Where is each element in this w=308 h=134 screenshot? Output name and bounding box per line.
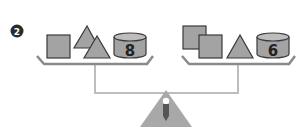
- fulcrum: [140, 90, 192, 127]
- left-cylinder-label: 8: [125, 42, 135, 60]
- left-pan: 8: [37, 26, 153, 64]
- scale-frame: [94, 64, 239, 94]
- right-cylinder-label: 6: [268, 42, 278, 60]
- balance-scale-figure: 2 8: [0, 0, 308, 134]
- right-cylinder: 6: [257, 33, 289, 60]
- problem-number-badge: 2: [11, 25, 24, 38]
- right-square-front: [199, 35, 222, 58]
- left-cylinder: 8: [114, 33, 146, 60]
- left-square: [47, 35, 70, 58]
- right-pan: 6: [182, 26, 295, 64]
- problem-number: 2: [14, 27, 20, 37]
- right-triangle: [227, 35, 253, 58]
